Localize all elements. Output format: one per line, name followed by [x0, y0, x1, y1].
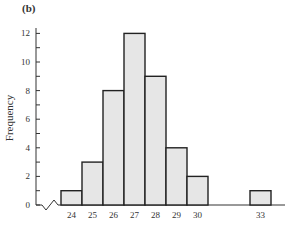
bar-29 — [166, 148, 187, 205]
bar-30 — [187, 176, 208, 205]
y-tick-label: 0 — [26, 200, 31, 210]
y-tick-label: 6 — [26, 114, 31, 124]
bar-33 — [250, 191, 271, 205]
x-tick-label: 27 — [130, 210, 140, 220]
bar-24 — [61, 191, 82, 205]
x-tick-label: 30 — [193, 210, 203, 220]
y-tick-label: 10 — [21, 57, 31, 67]
x-tick-label: 26 — [109, 210, 119, 220]
bar-27 — [124, 33, 145, 205]
x-tick-label: 25 — [88, 210, 98, 220]
bar-26 — [103, 91, 124, 205]
y-tick-label: 12 — [21, 28, 30, 38]
x-tick-label: 29 — [172, 210, 182, 220]
y-tick-label: 2 — [26, 171, 31, 181]
histogram: 0246810122425262728293033 — [0, 0, 290, 227]
y-tick-label: 4 — [26, 143, 31, 153]
x-tick-label: 24 — [67, 210, 77, 220]
y-tick-label: 8 — [26, 86, 31, 96]
bar-28 — [145, 76, 166, 205]
x-tick-label: 33 — [256, 210, 266, 220]
bar-25 — [82, 162, 103, 205]
x-tick-label: 28 — [151, 210, 161, 220]
